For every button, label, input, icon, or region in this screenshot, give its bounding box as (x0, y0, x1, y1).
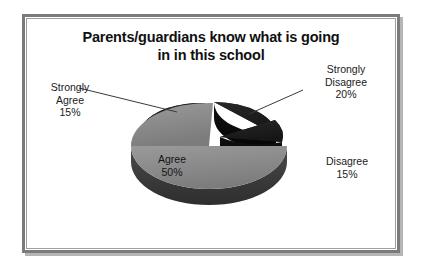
pie-label-strongly-disagree-line-2: Disagree (304, 76, 388, 89)
frame-shadow-bottom (25, 253, 403, 256)
pie-label-agree-value: 50% (135, 166, 209, 179)
pie-label-disagree-value: 15% (310, 168, 384, 181)
pie-label-agree-line-1: Agree (135, 153, 209, 166)
pie-label-agree: Agree 50% (135, 153, 209, 179)
figure-root: Parents/guardians know what is going in … (0, 0, 422, 277)
pie-label-disagree-line-1: Disagree (310, 155, 384, 168)
leader-line-strongly-disagree (249, 90, 303, 114)
pie-label-strongly-disagree: Strongly Disagree 20% (304, 63, 388, 101)
pie-chart-graphic (27, 19, 395, 248)
pie-label-disagree: Disagree 15% (310, 155, 384, 180)
pie-slice-agree-top-upper (131, 103, 213, 146)
pie-label-strongly-agree: Strongly Agree 15% (32, 81, 108, 119)
frame-shadow-right (400, 17, 403, 256)
pie-label-strongly-agree-value: 15% (32, 106, 108, 119)
pie-label-strongly-agree-line-2: Agree (32, 94, 108, 107)
pie-label-strongly-disagree-line-1: Strongly (304, 63, 388, 76)
chart-plot-area: Parents/guardians know what is going in … (27, 19, 395, 248)
pie-label-strongly-agree-line-1: Strongly (32, 81, 108, 94)
pie-label-strongly-disagree-value: 20% (304, 88, 388, 101)
